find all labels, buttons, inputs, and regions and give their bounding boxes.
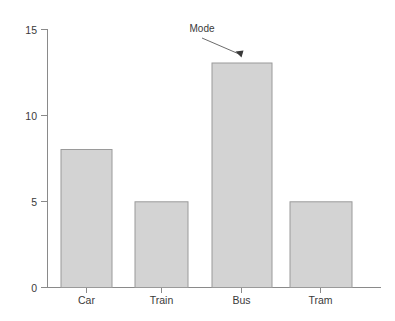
x-tick-label-bus: Bus <box>232 294 250 306</box>
x-tick-label-tram: Tram <box>308 294 332 306</box>
y-tick-label-15: 15 <box>25 24 37 36</box>
x-tick-label-car: Car <box>78 294 95 306</box>
bar-chart-figure: 0 5 10 15 Car Train Bus Tram Mode <box>0 0 395 321</box>
bar-car <box>61 150 112 288</box>
chart-canvas: 0 5 10 15 Car Train Bus Tram Mode <box>0 0 395 321</box>
y-tick-label-0: 0 <box>31 282 37 294</box>
y-tick-label-10: 10 <box>25 110 37 122</box>
x-tick-label-train: Train <box>150 294 174 306</box>
bar-bus <box>212 63 272 288</box>
bar-train <box>135 202 188 288</box>
annotation-label-mode: Mode <box>189 23 214 34</box>
bar-tram <box>290 202 352 288</box>
y-tick-label-5: 5 <box>31 196 37 208</box>
